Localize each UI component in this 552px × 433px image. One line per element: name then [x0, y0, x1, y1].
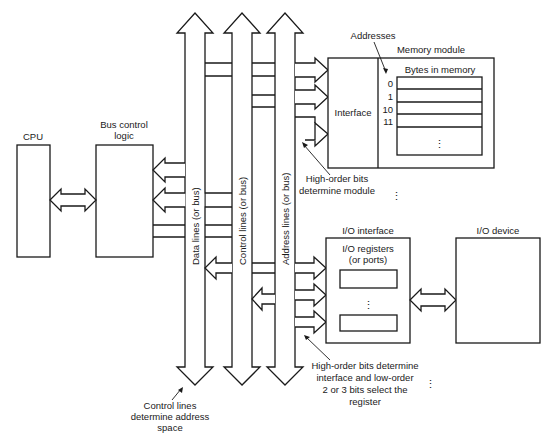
cpu-bus-control-double-arrow	[50, 189, 96, 211]
io-select-line1: High-order bits determine	[311, 360, 418, 371]
address-10: 10	[382, 104, 393, 115]
more-interfaces-ellipsis: ⋮	[425, 378, 436, 390]
io-select-line3: 2 or 3 bits select the	[322, 384, 407, 395]
control-space-line3: space	[157, 422, 182, 433]
address-to-io-arrow-2	[295, 284, 326, 306]
io-device-label: I/O device	[477, 225, 520, 236]
address-1: 1	[388, 91, 393, 102]
io-register-1	[340, 270, 397, 288]
address-to-memory-arrow-3	[305, 123, 328, 146]
address-11: 11	[383, 116, 393, 127]
control-space-line1: Control lines	[144, 400, 197, 411]
io-select-line4: register	[349, 396, 381, 407]
bus-control-label-line1: Bus control	[100, 119, 148, 130]
bus-architecture-diagram: CPU Bus control logic Data lines (or bus…	[0, 0, 552, 433]
bytes-ellipsis: ⋮	[434, 138, 445, 150]
address-to-control-arrow	[252, 288, 275, 310]
bus-control-label-line2: logic	[114, 130, 134, 141]
addresses-label: Addresses	[351, 30, 396, 41]
control-to-bus-control-arrow	[153, 188, 185, 212]
data-bus-label: Data lines (or bus)	[190, 187, 201, 265]
control-bus-label: Control lines (or bus)	[237, 177, 248, 265]
data-to-bus-control-arrow-1	[153, 158, 185, 182]
io-registers-ellipsis: ⋮	[363, 299, 374, 311]
address-to-io-arrow-3	[295, 311, 326, 333]
address-to-memory-arrow-1	[295, 58, 328, 82]
high-order-module-line2: determine module	[299, 185, 375, 196]
cpu-box	[17, 145, 50, 257]
io-registers-line1: I/O registers	[342, 243, 394, 254]
address-0: 0	[388, 78, 393, 89]
io-registers-line2: (or ports)	[349, 254, 388, 265]
io-register-2	[340, 315, 397, 331]
address-to-memory-arrow-2	[295, 85, 328, 109]
address-bus-label: Address lines (or bus)	[280, 173, 291, 265]
io-interface-device-double-arrow	[410, 289, 456, 311]
io-device-box	[456, 238, 540, 343]
high-order-module-line1: High-order bits	[306, 173, 369, 184]
more-modules-ellipsis: ⋮	[391, 190, 402, 202]
control-space-line2: determine address	[131, 411, 210, 422]
cpu-label: CPU	[23, 131, 43, 142]
bytes-in-memory-label: Bytes in memory	[405, 64, 476, 75]
high-order-module-pointer	[304, 145, 330, 175]
memory-module-label: Memory module	[397, 44, 465, 55]
address-to-io-arrow-1	[295, 257, 326, 279]
io-interface-label: I/O interface	[342, 225, 394, 236]
interface-label: Interface	[335, 107, 372, 118]
control-to-data-arrow	[205, 257, 232, 279]
bus-control-logic-box	[96, 145, 153, 257]
io-select-line2: interface and low-order	[316, 372, 413, 383]
